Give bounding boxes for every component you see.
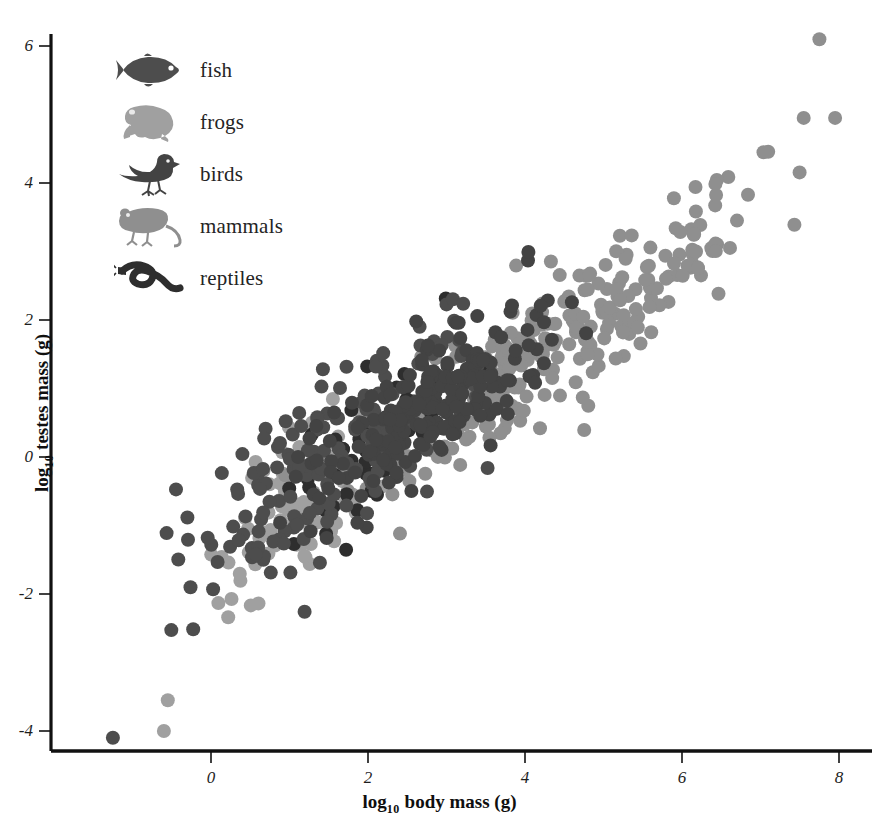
data-point <box>793 165 807 179</box>
data-point <box>709 244 723 258</box>
data-point <box>423 430 437 444</box>
legend-item-reptiles: reptiles <box>110 252 340 304</box>
data-point <box>233 567 247 581</box>
data-point <box>616 325 630 339</box>
data-point <box>538 388 552 402</box>
legend-label: birds <box>200 162 243 187</box>
data-point <box>336 457 350 471</box>
data-point <box>215 466 229 480</box>
data-point <box>544 255 558 269</box>
data-point <box>597 331 611 345</box>
data-point <box>421 339 435 353</box>
data-point <box>509 344 523 358</box>
data-point <box>797 111 811 125</box>
x-tick-label: 4 <box>521 768 530 788</box>
data-point <box>609 352 623 366</box>
x-axis-title-base: log <box>363 791 387 812</box>
data-point <box>186 622 200 636</box>
data-point <box>494 330 508 344</box>
data-point <box>631 321 645 335</box>
snake-icon <box>110 256 188 300</box>
data-point <box>445 427 459 441</box>
data-point <box>235 447 249 461</box>
data-point <box>289 470 303 484</box>
x-tick-label: 8 <box>835 768 844 788</box>
data-point <box>283 566 297 580</box>
x-tick-label: 6 <box>678 768 687 788</box>
data-point <box>451 370 465 384</box>
data-point <box>339 499 353 513</box>
data-point <box>545 333 559 347</box>
data-point <box>625 228 639 242</box>
data-point <box>390 466 404 480</box>
data-point <box>310 454 324 468</box>
data-point <box>642 259 656 273</box>
data-point <box>339 543 353 557</box>
data-point <box>253 482 267 496</box>
data-point <box>297 549 311 563</box>
data-point <box>316 362 330 376</box>
data-point <box>521 245 535 259</box>
data-point <box>643 300 657 314</box>
data-point <box>369 433 383 447</box>
data-point <box>581 347 595 361</box>
data-point <box>211 555 225 569</box>
data-point <box>414 418 428 432</box>
legend-label: fish <box>200 58 232 83</box>
y-tick-label: -4 <box>19 721 33 741</box>
data-point <box>741 188 755 202</box>
data-point <box>537 315 551 329</box>
data-point <box>340 360 354 374</box>
data-point <box>667 257 681 271</box>
data-point <box>481 461 495 475</box>
data-point <box>629 302 643 316</box>
data-point <box>351 421 365 435</box>
mouse-icon <box>110 204 188 248</box>
x-axis-title-rest: body mass (g) <box>400 791 517 812</box>
data-point <box>551 350 565 364</box>
data-point <box>201 531 215 545</box>
data-point <box>320 531 334 545</box>
data-point <box>615 270 629 284</box>
data-point <box>244 598 258 612</box>
data-point <box>676 269 690 283</box>
bird-icon <box>110 152 188 196</box>
data-point <box>528 376 542 390</box>
data-point <box>408 449 422 463</box>
data-point <box>256 506 270 520</box>
data-point <box>687 227 701 241</box>
data-point <box>106 731 120 745</box>
data-point <box>232 533 246 547</box>
data-point <box>385 487 399 501</box>
data-point <box>171 553 185 567</box>
data-point <box>522 338 536 352</box>
data-point <box>313 556 327 570</box>
data-point <box>452 316 466 330</box>
data-point <box>730 214 744 228</box>
data-point <box>453 415 467 429</box>
y-axis-title-base: log <box>31 468 52 492</box>
data-point <box>256 462 270 476</box>
data-point <box>206 582 220 596</box>
x-tick-label: 0 <box>207 768 216 788</box>
data-point <box>828 111 842 125</box>
data-point <box>581 283 595 297</box>
data-point <box>283 490 297 504</box>
data-point <box>667 191 681 205</box>
data-point <box>453 331 467 345</box>
data-point <box>383 413 397 427</box>
data-point <box>723 241 737 255</box>
data-point <box>279 414 293 428</box>
data-point <box>376 346 390 360</box>
data-point <box>501 407 515 421</box>
data-point <box>520 390 534 404</box>
data-point <box>505 299 519 313</box>
legend-item-frogs: frogs <box>110 96 340 148</box>
data-point <box>393 527 407 541</box>
scatter-plot-figure: 02468-4-20246 fishfrogsbirdsmammalsrepti… <box>0 0 879 830</box>
data-point <box>712 287 726 301</box>
data-point <box>348 466 362 480</box>
data-point <box>333 381 347 395</box>
data-point <box>257 432 271 446</box>
data-point <box>534 299 548 313</box>
